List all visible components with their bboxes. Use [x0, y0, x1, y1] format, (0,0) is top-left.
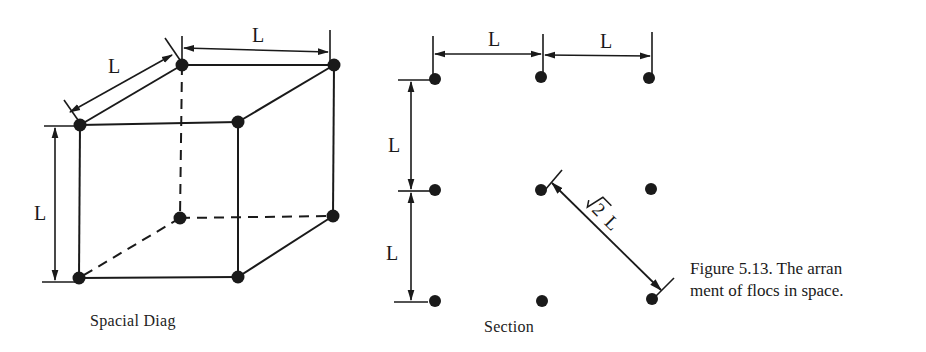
floc-node [535, 71, 547, 83]
floc-node [643, 72, 655, 84]
svg-text:2: 2 [588, 199, 610, 221]
caption-line-2: ment of flocs in space. [690, 280, 843, 302]
floc-node [536, 295, 548, 307]
floc-node [232, 116, 245, 129]
dimension-tick [545, 170, 562, 190]
cube-edge [238, 216, 333, 277]
cube-edge [80, 65, 182, 125]
section-nodes [429, 71, 658, 307]
floc-node [176, 59, 189, 72]
floc-node [646, 293, 658, 305]
floc-node [327, 210, 340, 223]
section-width-label: L [488, 28, 500, 50]
dimension-tick [64, 100, 78, 120]
floc-node [645, 183, 657, 195]
dimension-tick [165, 38, 180, 60]
floc-node [174, 212, 187, 225]
height-label: L [34, 202, 46, 224]
dimension-line [545, 55, 650, 56]
cube-diagram [42, 30, 334, 282]
floc-node [429, 295, 441, 307]
dimension-line [552, 183, 661, 290]
floc-node [74, 119, 87, 132]
cube-edge [79, 277, 238, 278]
section-diagram-title: Section [484, 318, 534, 336]
floc-node [232, 271, 245, 284]
cube-edge [238, 65, 334, 122]
dimension-line [70, 55, 172, 112]
cube-hidden-edge [79, 218, 180, 278]
cube-edge [333, 65, 334, 216]
depth-label: L [108, 55, 120, 77]
section-height-label: L [388, 134, 400, 156]
floc-node [535, 184, 547, 196]
cube-edge [80, 122, 238, 125]
floc-node [328, 59, 341, 72]
floc-node [429, 184, 441, 196]
cube-hidden-edge [180, 65, 182, 218]
cube-nodes [73, 59, 341, 285]
svg-text:L: L [601, 211, 624, 234]
caption-line-1: Figure 5.13. The arran [690, 258, 843, 280]
section-height-label: L [386, 242, 398, 264]
cube-diagram-title: Spacial Diag [90, 312, 176, 330]
width-label: L [252, 24, 264, 46]
diagonal-label: 2 L [582, 192, 625, 235]
section-width-label: L [600, 30, 612, 52]
floc-node [73, 272, 86, 285]
figure-caption: Figure 5.13. The arran ment of flocs in … [690, 258, 843, 302]
cube-edge [79, 125, 80, 278]
section-diagram [394, 32, 674, 302]
cube-hidden-edge [180, 216, 333, 218]
floc-node [429, 73, 441, 85]
dimension-line [184, 48, 328, 52]
